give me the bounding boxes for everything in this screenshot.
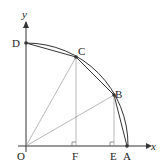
label-D: D <box>12 37 20 49</box>
segment-OC <box>26 57 76 146</box>
label-A: A <box>123 150 131 162</box>
label-E: E <box>110 150 117 162</box>
label-y: y <box>21 8 27 20</box>
label-C: C <box>78 45 85 57</box>
label-O: O <box>17 150 25 162</box>
point-A <box>125 144 129 148</box>
y-axis-arrow-icon <box>23 21 29 28</box>
label-x: x <box>150 140 156 152</box>
right-angle-mark-F <box>72 142 76 146</box>
point-D <box>24 41 28 45</box>
label-B: B <box>115 88 122 100</box>
quarter-circle-diagram: y x D C B O F E A <box>0 0 164 168</box>
segment-OB <box>26 95 114 146</box>
label-F: F <box>72 150 78 162</box>
right-angle-mark-E <box>110 142 114 146</box>
